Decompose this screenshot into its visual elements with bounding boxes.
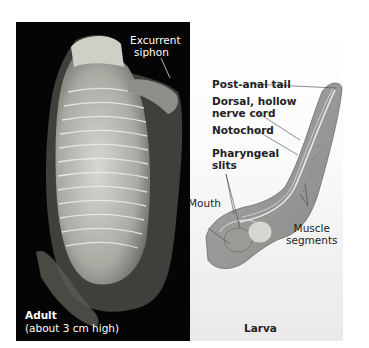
mouth-label: Mouth: [190, 197, 221, 209]
post-anal-tail-label: Post-anal tail: [212, 78, 291, 90]
pharyngeal-slits-line1: Pharyngeal: [212, 147, 279, 159]
dorsal-nerve-cord-line1: Dorsal, hollow: [212, 95, 297, 107]
adult-caption-title: Adult: [25, 309, 57, 321]
dorsal-nerve-cord-label: Dorsal, hollow nerve cord: [212, 95, 297, 119]
adult-caption-note: (about 3 cm high): [25, 322, 119, 334]
adult-photo-panel: Excurrent siphon Adult (about 3 cm high): [16, 22, 190, 341]
larva-caption-title: Larva: [244, 322, 277, 334]
muscle-segments-line1: Muscle: [286, 222, 338, 234]
excurrent-siphon-label: Excurrent siphon: [130, 34, 181, 58]
larva-diagram-panel: Post-anal tail Dorsal, hollow nerve cord…: [190, 22, 343, 341]
pharyngeal-slits-line2: slits: [212, 159, 279, 171]
excurrent-label-line2: siphon: [130, 46, 181, 58]
muscle-segments-label: Muscle segments: [286, 222, 338, 246]
muscle-segments-line2: segments: [286, 234, 338, 246]
larva-illustration: [190, 22, 343, 341]
adult-tunicate-image: [16, 22, 190, 341]
pharyngeal-slits-label: Pharyngeal slits: [212, 147, 279, 171]
notochord-label: Notochord: [212, 124, 274, 136]
excurrent-label-line1: Excurrent: [130, 34, 181, 46]
dorsal-nerve-cord-line2: nerve cord: [212, 107, 297, 119]
